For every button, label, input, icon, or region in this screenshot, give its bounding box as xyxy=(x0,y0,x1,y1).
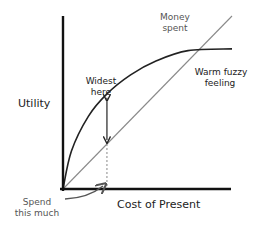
x-axis-label: Cost of Present xyxy=(117,198,201,211)
widest-label-1: Widest xyxy=(86,76,117,86)
money-spent-line xyxy=(63,16,232,189)
spend-label-2: this much xyxy=(15,208,59,218)
widest-label-2: here xyxy=(91,87,112,97)
spend-label-1: Spend xyxy=(23,197,51,207)
money-spent-label-2: spent xyxy=(162,23,188,33)
warm-fuzzy-label-1: Warm fuzzy xyxy=(195,67,248,77)
money-spent-label-1: Money xyxy=(160,12,191,22)
utility-chart: Utility Cost of Present Money spent Warm… xyxy=(0,0,255,233)
y-axis-label: Utility xyxy=(18,97,51,110)
warm-fuzzy-label-2: feeling xyxy=(205,78,236,88)
